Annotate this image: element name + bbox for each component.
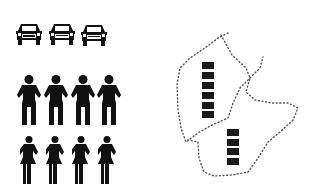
lower-right-blocks	[227, 129, 239, 165]
upper-left-region-outline	[177, 33, 263, 142]
region-map	[0, 0, 320, 194]
upper-left-blocks	[202, 62, 214, 118]
